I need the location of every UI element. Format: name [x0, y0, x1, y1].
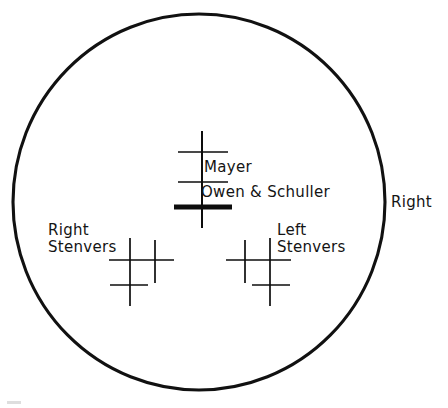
diagram-canvas: Mayer Owen & Schuller Right Stenvers Lef… — [0, 0, 448, 408]
label-right-side: Right — [391, 194, 432, 211]
label-owen-schuller: Owen & Schuller — [201, 184, 330, 201]
label-mayer: Mayer — [204, 159, 252, 176]
label-right-stenvers: Right Stenvers — [48, 222, 117, 256]
head-outline-circle — [13, 14, 385, 390]
page-edge-artifact — [7, 401, 21, 404]
diagram-vector-layer — [0, 0, 448, 408]
label-left-stenvers: Left Stenvers — [277, 222, 346, 256]
